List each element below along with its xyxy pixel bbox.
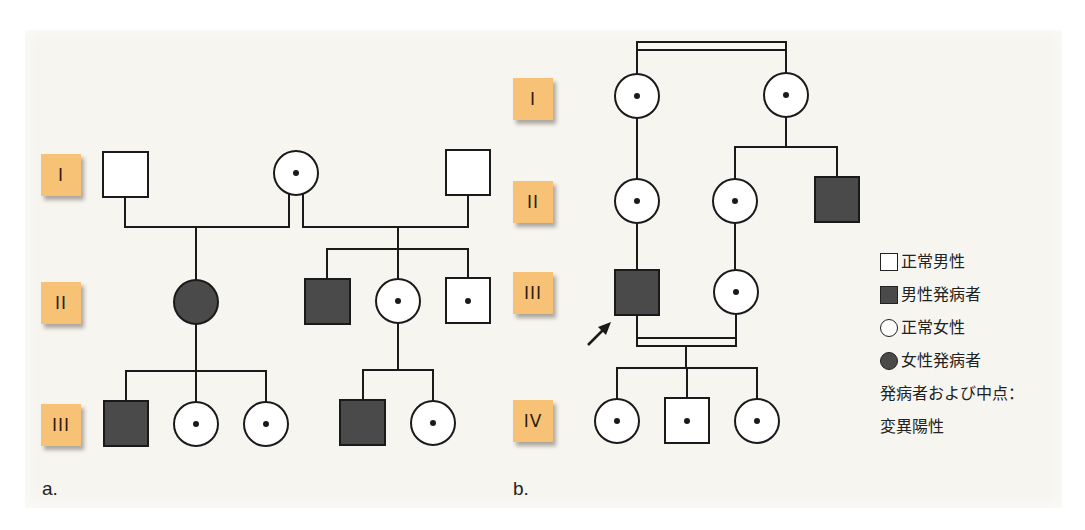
legend-item-affected-male: 男性発病者 bbox=[880, 278, 1024, 311]
legend-item-affected-female: 女性発病者 bbox=[880, 344, 1024, 377]
legend-note-line2: 変異陽性 bbox=[880, 410, 1024, 443]
sibship-line-b-ii bbox=[735, 147, 837, 179]
normal-male-a-i3 bbox=[446, 150, 490, 195]
mating-line-a-i2-i3 bbox=[303, 194, 468, 227]
legend-item-normal-male: 正常男性 bbox=[880, 245, 1024, 278]
consanguinity-line-b-i bbox=[637, 42, 786, 74]
normal-male-a-i1 bbox=[103, 152, 148, 197]
circle-open-icon bbox=[880, 319, 898, 337]
legend: 正常男性 男性発病者 正常女性 女性発病者 発病者および中点： 変異陽性 bbox=[880, 245, 1024, 443]
square-open-icon bbox=[880, 253, 898, 271]
proband-arrow-icon bbox=[588, 322, 611, 345]
square-filled-icon bbox=[880, 286, 898, 304]
carrier-dots-b bbox=[614, 92, 789, 424]
mating-line-a-i1-i2 bbox=[125, 194, 289, 227]
affected-male-a-iii4 bbox=[340, 400, 385, 445]
affected-male-a-iii1 bbox=[104, 401, 148, 446]
legend-label: 男性発病者 bbox=[901, 278, 981, 311]
consanguinity-line-b-iii bbox=[637, 314, 736, 346]
legend-note-line1: 発病者および中点： bbox=[880, 377, 1024, 410]
affected-male-a-ii2 bbox=[305, 279, 350, 324]
legend-label: 正常女性 bbox=[901, 311, 965, 344]
legend-label: 正常男性 bbox=[901, 245, 965, 278]
legend-label: 女性発病者 bbox=[901, 344, 981, 377]
circle-filled-icon bbox=[880, 352, 898, 370]
affected-female-a-ii1 bbox=[174, 280, 218, 324]
affected-male-b-ii3 bbox=[815, 177, 859, 222]
proband-affected-male-b-iii1 bbox=[615, 270, 659, 315]
legend-item-normal-female: 正常女性 bbox=[880, 311, 1024, 344]
sibship-line-a-iii-right bbox=[363, 370, 433, 401]
